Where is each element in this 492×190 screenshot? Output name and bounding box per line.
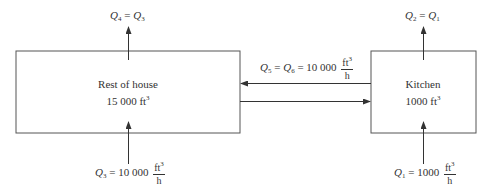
kitchen-volume: 1000 ft3 (383, 91, 463, 108)
q1-unit: ft3h (444, 161, 456, 186)
kitchen-name: Kitchen (383, 77, 463, 91)
rest-of-house-label: Rest of house 15 000 ft3 (78, 77, 178, 108)
q5-q6-unit: ft3h (341, 56, 353, 81)
q5-q6-label: Q5 = Q6 = 10 000 ft3h (260, 56, 353, 81)
q3-unit: ft3h (153, 161, 165, 186)
q3-label: Q3 = 10 000 ft3h (95, 161, 165, 186)
q4-label: Q4 = Q3 (110, 10, 145, 23)
rest-of-house-name: Rest of house (78, 77, 178, 91)
rest-of-house-volume: 15 000 ft3 (78, 91, 178, 108)
q2-label: Q2 = Q1 (405, 10, 440, 23)
kitchen-label: Kitchen 1000 ft3 (383, 77, 463, 108)
q1-label: Q1 = 1000 ft3h (394, 161, 456, 186)
